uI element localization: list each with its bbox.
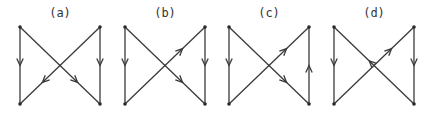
vertex-BR [412,102,416,106]
vertex-BR [98,102,102,106]
panel-c: (c) [226,6,312,106]
panel-label-a: (a) [49,6,71,20]
vertex-TR [203,25,207,29]
vertex-BL [18,102,22,106]
vertex-TL [123,25,127,29]
panel-b: (b) [122,6,208,106]
vertex-BL [123,102,127,106]
vertex-TL [18,25,22,29]
vertex-TR [307,25,311,29]
panel-a: (a) [17,6,103,106]
vertex-TR [98,25,102,29]
vertex-BR [203,102,207,106]
vertex-TR [412,25,416,29]
vertex-TL [332,25,336,29]
vertex-BL [332,102,336,106]
panel-label-b: (b) [154,6,176,20]
vertex-TL [227,25,231,29]
panel-label-d: (d) [363,6,385,20]
panel-label-c: (c) [258,6,280,20]
panel-d: (d) [331,6,417,106]
directed-graph-figure: (a) (b) (c) (d) [0,0,433,113]
vertex-BL [227,102,231,106]
vertex-BR [307,102,311,106]
